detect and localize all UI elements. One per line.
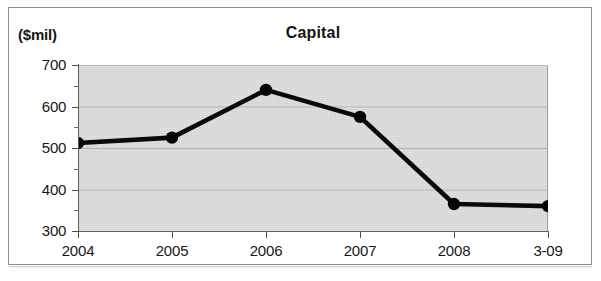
chart-title: Capital bbox=[78, 24, 548, 42]
x-tick-label-3-09: 3-09 bbox=[513, 242, 583, 259]
x-tick-2008 bbox=[454, 232, 455, 238]
x-axis-line bbox=[78, 231, 549, 232]
y-tick-label-700: 700 bbox=[14, 56, 66, 73]
frame-shadow bbox=[9, 266, 592, 268]
x-tick-label-2004: 2004 bbox=[43, 242, 113, 259]
x-tick-2005 bbox=[172, 232, 173, 238]
x-tick-label-2005: 2005 bbox=[137, 242, 207, 259]
y-tick-700 bbox=[72, 65, 79, 66]
data-point-2008 bbox=[448, 198, 460, 210]
gridlines bbox=[78, 66, 548, 191]
data-point-2007 bbox=[354, 111, 366, 123]
y-minor-tick-550 bbox=[74, 127, 79, 128]
data-point-2006 bbox=[260, 84, 272, 96]
y-minor-tick-650 bbox=[74, 86, 79, 87]
y-minor-tick-450 bbox=[74, 169, 79, 170]
y-tick-label-600: 600 bbox=[14, 98, 66, 115]
plot-area bbox=[78, 65, 548, 231]
x-tick-label-2008: 2008 bbox=[419, 242, 489, 259]
x-tick-2004 bbox=[78, 232, 79, 238]
y-tick-label-400: 400 bbox=[14, 181, 66, 198]
y-minor-tick-350 bbox=[74, 210, 79, 211]
y-axis-unit-label: ($mil) bbox=[18, 26, 57, 43]
data-point-2005 bbox=[166, 131, 178, 143]
y-tick-600 bbox=[72, 107, 79, 108]
x-tick-2007 bbox=[360, 232, 361, 238]
x-tick-2006 bbox=[266, 232, 267, 238]
y-tick-label-300: 300 bbox=[14, 222, 66, 239]
data-point-3-09 bbox=[542, 200, 548, 212]
line-chart-svg bbox=[78, 65, 548, 231]
chart-page: ($mil) Capital 300400500600700 200420052… bbox=[0, 0, 601, 281]
x-tick-label-2007: 2007 bbox=[325, 242, 395, 259]
y-tick-label-500: 500 bbox=[14, 139, 66, 156]
x-tick-label-2006: 2006 bbox=[231, 242, 301, 259]
y-tick-400 bbox=[72, 190, 79, 191]
y-tick-500 bbox=[72, 148, 79, 149]
x-tick-3-09 bbox=[548, 232, 549, 238]
